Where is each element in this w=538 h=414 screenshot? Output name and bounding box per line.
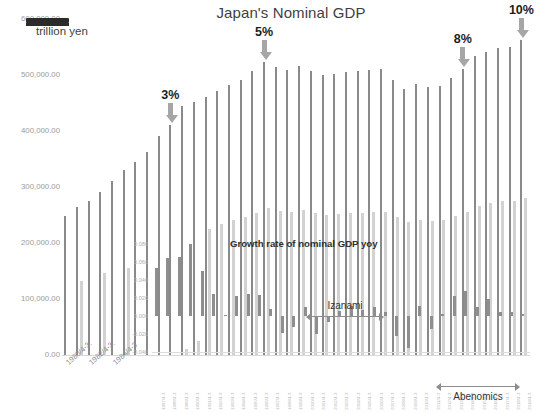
inner-x-tick-label: 2006/4-3 [379,393,384,410]
annotation-10pct: 10% [504,4,538,38]
inner-x-tick-label: 2001/4-3 [321,393,326,410]
annotation-3pct: 3% [153,89,187,123]
growth-bars-plot [152,244,530,352]
growth-bar [384,312,387,317]
annotation-label: 10% [504,4,538,17]
growth-bar [521,314,524,316]
inner-x-tick-label: 1998/4-3 [287,393,292,410]
inner-x-tick-label: 2000/4-3 [310,393,315,410]
inner-x-tick-label: 2008/4-3 [401,393,406,410]
abenomics-label: Abenomics [436,391,520,403]
inner-x-tick-label: 1987/4-3 [161,393,166,410]
growth-bar [453,296,456,316]
inner-y-tick-label: 0.080 [108,241,148,247]
annotation-5pct: 5% [247,26,281,60]
growth-bar [212,294,215,316]
abenomics-annotation: Abenomics [436,382,520,403]
inner-x-tick-label: 2010/4-3 [424,393,429,410]
inner-x-tick-label: 1991/4-3 [207,393,212,410]
inner-x-tick-label: 1990/4-3 [195,393,200,410]
y-tick-label: 500,000.00 [21,70,60,79]
annotation-label: 8% [446,33,480,46]
inner-y-tick-label: 0.060 [108,259,148,265]
inner-x-tick-label: 1999/4-3 [298,393,303,410]
growth-bar [247,294,250,317]
growth-bar [476,307,479,316]
growth-bar [292,316,295,327]
annotation-label: 3% [153,89,187,102]
y-tick-label: 100,000.00 [21,294,60,303]
inner-y-tick-label: 0.000 [108,313,148,319]
inner-x-tick-label: 1988/4-3 [172,393,177,410]
y-axis-labels: 600,000.00 500,000.00 400,000.00 300,000… [0,0,60,360]
inner-y-tick-label: -0.020 [108,331,148,337]
growth-bar [510,312,513,316]
growth-bar [407,316,410,348]
down-arrow-icon [517,18,526,38]
growth-bar [269,309,272,316]
growth-bar [235,296,238,316]
growth-bar [258,295,261,316]
inner-y-tick-label: 0.040 [108,277,148,283]
inner-growth-chart: Growth rate of nominal GDP yoy 0.0800.06… [108,238,532,414]
growth-bar [178,257,181,316]
inner-x-tick-label: 2007/4-3 [390,393,395,410]
inner-x-tick-label: 2002/4-3 [333,393,338,410]
growth-bar [155,268,158,316]
growth-bar [395,316,398,336]
inner-x-tick-label: 1996/4-3 [264,393,269,410]
inner-y-tick-label: 0.020 [108,295,148,301]
down-arrow-icon [260,40,269,60]
growth-bar [487,299,490,316]
down-arrow-icon [166,103,175,123]
y-tick-label: 300,000.00 [21,182,60,191]
down-arrow-icon [458,47,467,67]
growth-bar [201,271,204,316]
inner-x-tick-label: 2009/4-3 [413,393,418,410]
y-tick-label: 200,000.00 [21,238,60,247]
inner-zero-line [152,352,530,353]
izanami-double-arrow [306,312,384,321]
inner-x-tick-label: 2019/4-3 [527,393,532,410]
growth-bar [166,258,169,317]
growth-bar [418,306,421,316]
izanami-label: Izanami [306,300,384,312]
growth-bar [224,315,227,316]
growth-bar [499,312,502,317]
annotation-label: 5% [247,26,281,39]
inner-x-tick-label: 1997/4-3 [275,393,280,410]
inner-x-tick-label: 2003/4-3 [344,393,349,410]
inner-x-tick-label: 1992/4-3 [218,393,223,410]
y-tick-label: 400,000.00 [21,126,60,135]
growth-bar [430,316,433,329]
gdp-bar [99,192,101,355]
inner-x-tick-label: 2004/4-3 [356,393,361,410]
izanami-annotation: Izanami [306,300,384,321]
inner-x-tick-label: 1993/4-3 [230,393,235,410]
y-tick-label: 0.00 [45,350,60,359]
abenomics-double-arrow [436,382,520,391]
inner-x-tick-label: 1994/4-3 [241,393,246,410]
annotation-8pct: 8% [446,33,480,67]
inner-x-tick-label: 1989/4-3 [184,393,189,410]
inner-x-tick-label: 2005/4-3 [367,393,372,410]
gdp-bar [88,201,90,355]
growth-bar [189,244,192,316]
growth-bar [281,316,284,333]
gdp-bar [76,207,78,355]
inner-x-tick-label: 1995/4-3 [253,393,258,410]
gdp-bar [64,216,66,355]
growth-bar [441,314,444,316]
growth-bar [464,291,467,316]
inner-y-tick-label: -0.040 [108,349,148,355]
